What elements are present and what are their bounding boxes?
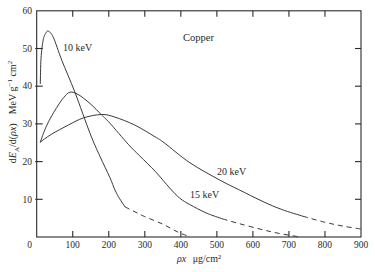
x-axis-units: μg/cm² [193, 253, 221, 264]
curve-label-10kev: 10 keV [63, 42, 93, 53]
y-tick-label: 50 [23, 44, 33, 54]
x-tick-label: 600 [246, 240, 261, 250]
x-tick-label: 800 [318, 240, 333, 250]
x-tick-label: 400 [174, 240, 189, 250]
y-tick-label: 20 [23, 157, 33, 167]
x-axis-symbol: ρx [176, 253, 187, 264]
y-tick-label: 10 [23, 195, 33, 205]
x-tick-label: 900 [354, 240, 369, 250]
curve-label-20kev: 20 keV [217, 166, 247, 177]
x-tick-label: 700 [282, 240, 297, 250]
y-tick-label: 30 [23, 119, 33, 129]
x-tick-label: 200 [102, 240, 117, 250]
x-tick-label: 300 [138, 240, 153, 250]
x-tick-label: 100 [66, 240, 81, 250]
y-axis-exp2: 2 [6, 60, 14, 64]
y-axis-close: ) [7, 123, 19, 126]
y-axis-units: MeV g [7, 86, 18, 114]
curve-label-15kev: 15 keV [190, 189, 220, 200]
x-tick-label: 0 [27, 240, 32, 250]
y-axis-E: E [7, 152, 18, 159]
y-tick-label: 60 [23, 6, 33, 16]
chart-svg: 0100200300400500600700800900 10203040506… [0, 0, 375, 272]
y-axis-cm: cm [7, 64, 18, 79]
x-tick-label: 500 [210, 240, 225, 250]
y-axis-per: /d( [7, 135, 19, 147]
x-axis-label: ρx μg/cm² [176, 253, 221, 264]
y-tick-label: 40 [23, 81, 33, 91]
chart-title: Copper [183, 32, 214, 43]
y-axis-symbol: ρx [7, 126, 18, 137]
